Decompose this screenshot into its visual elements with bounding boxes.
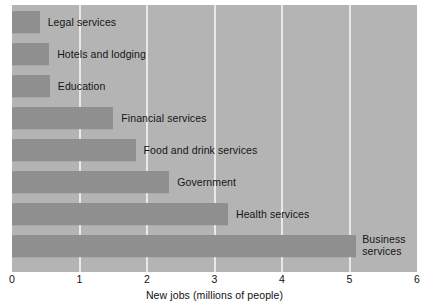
bar-row: Health services <box>12 203 417 225</box>
bar-chart: Legal servicesHotels and lodgingEducatio… <box>0 0 429 308</box>
bar-label-line: services <box>362 246 417 258</box>
x-tick-label: 1 <box>77 273 83 285</box>
bar-label: Hotels and lodging <box>57 43 146 65</box>
bar <box>12 171 169 193</box>
bar <box>12 75 50 97</box>
bar <box>12 43 49 65</box>
bar-label: Food and drink services <box>144 139 258 161</box>
bar-label: Businessservices <box>362 234 417 256</box>
bar-row: Legal services <box>12 11 417 33</box>
x-axis: 0123456 <box>12 272 417 288</box>
bar <box>12 107 113 129</box>
bar-label: Financial services <box>121 107 206 129</box>
bar-row: Food and drink services <box>12 139 417 161</box>
bar-label: Education <box>58 75 106 97</box>
bar-row: Financial services <box>12 107 417 129</box>
plot-area: Legal servicesHotels and lodgingEducatio… <box>12 5 417 272</box>
bar-label: Government <box>177 171 236 193</box>
bar-label: Legal services <box>48 11 117 33</box>
bar <box>12 203 228 225</box>
x-tick-label: 0 <box>9 273 15 285</box>
x-tick-label: 5 <box>347 273 353 285</box>
x-tick-label: 4 <box>279 273 285 285</box>
bar <box>12 11 40 33</box>
bar-label-line: Business <box>362 234 417 246</box>
bar-row: Education <box>12 75 417 97</box>
bar-row: Hotels and lodging <box>12 43 417 65</box>
bar <box>12 235 356 257</box>
x-tick-label: 6 <box>414 273 420 285</box>
x-tick-label: 2 <box>144 273 150 285</box>
bar-row: Government <box>12 171 417 193</box>
bar <box>12 139 136 161</box>
x-axis-title: New jobs (millions of people) <box>0 289 429 301</box>
bar-row: Businessservices <box>12 235 417 257</box>
x-tick-label: 3 <box>212 273 218 285</box>
bar-label: Health services <box>236 203 309 225</box>
